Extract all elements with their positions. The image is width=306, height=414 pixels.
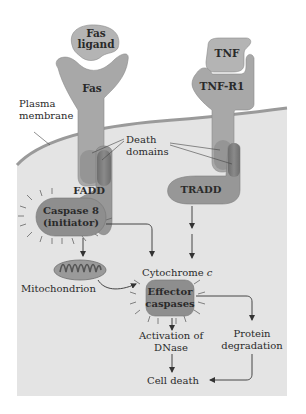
tnf-label: TNF bbox=[215, 47, 240, 59]
cell-death-label: Cell death bbox=[147, 375, 199, 386]
protein-degradation-label-2: degradation bbox=[221, 340, 283, 351]
fas-ligand-label-2: ligand bbox=[77, 38, 115, 50]
tradd-death-domain bbox=[228, 143, 240, 177]
effector-caspases-label-1: Effector bbox=[148, 286, 194, 297]
death-domains-label-2: domains bbox=[126, 146, 169, 157]
effector-caspases-label-2: caspases bbox=[145, 298, 195, 309]
fas-label: Fas bbox=[82, 82, 102, 94]
caspase8-label-1: Caspase 8 bbox=[43, 205, 99, 216]
caspase8-label-2: (initiator) bbox=[43, 217, 99, 228]
dnase-label-2: DNase bbox=[154, 342, 188, 353]
plasma-membrane-label-1: Plasma bbox=[19, 98, 56, 109]
apoptosis-diagram: Fas ligand Fas TNF TNF-R1 Plasma membran… bbox=[0, 0, 306, 414]
dnase-label-1: Activation of bbox=[138, 330, 205, 341]
death-domains-label-1: Death bbox=[126, 134, 157, 145]
mitochondrion-label: Mitochondrion bbox=[21, 283, 96, 294]
tnf-r1-label: TNF-R1 bbox=[200, 80, 245, 92]
mitochondrion-icon bbox=[54, 260, 106, 280]
cytochrome-c-label: Cytochrome c bbox=[142, 267, 213, 278]
fadd-label: FADD bbox=[73, 185, 105, 196]
plasma-membrane-label-2: membrane bbox=[19, 110, 73, 121]
tradd-label: TRADD bbox=[181, 184, 222, 195]
fadd-death-domain bbox=[97, 150, 111, 186]
protein-degradation-label-1: Protein bbox=[233, 328, 271, 339]
plasma-membrane-leader bbox=[34, 132, 50, 145]
